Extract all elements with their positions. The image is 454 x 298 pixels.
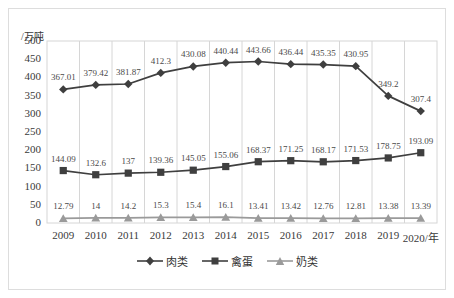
legend-marker-square-icon (202, 255, 228, 267)
data-label: 14 (79, 201, 113, 211)
data-label: 193.09 (404, 136, 438, 146)
data-label: 168.17 (306, 145, 340, 155)
legend-item-meat[interactable]: 肉类 (137, 253, 188, 269)
data-label: 12.79 (46, 201, 80, 211)
chart-legend: 肉类 禽蛋 奶类 (9, 253, 445, 269)
data-label: 132.6 (79, 158, 113, 168)
data-label: 168.37 (241, 145, 275, 155)
x-axis-tick: 2020/年 (400, 229, 442, 245)
legend-marker-diamond-icon (137, 255, 163, 267)
data-label: 13.39 (404, 201, 438, 211)
data-label: 435.35 (306, 48, 340, 58)
data-label: 15.4 (176, 200, 210, 210)
legend-label-meat: 肉类 (166, 253, 188, 269)
data-label: 12.81 (339, 201, 373, 211)
data-label: 16.1 (209, 200, 243, 210)
legend-item-dairy[interactable]: 奶类 (267, 253, 318, 269)
data-label: 171.53 (339, 144, 373, 154)
data-label: 171.25 (274, 144, 308, 154)
legend-marker-triangle-icon (267, 255, 293, 267)
data-label: 155.06 (209, 150, 243, 160)
data-label: 381.87 (111, 67, 145, 77)
data-label: 349.2 (371, 79, 405, 89)
data-label: 13.42 (274, 201, 308, 211)
data-label: 145.05 (176, 153, 210, 163)
data-label: 14.2 (111, 201, 145, 211)
chart-frame: /万吨 500450400350300250200150100500 367.0… (8, 8, 446, 290)
data-label: 436.44 (274, 47, 308, 57)
data-label: 144.09 (46, 154, 80, 164)
legend-label-dairy: 奶类 (296, 253, 318, 269)
data-label: 367.01 (46, 72, 80, 82)
legend-label-eggs: 禽蛋 (231, 253, 253, 269)
data-label: 430.08 (176, 49, 210, 59)
data-label: 440.44 (209, 46, 243, 56)
data-label: 13.38 (371, 201, 405, 211)
data-label: 430.95 (339, 49, 373, 59)
data-label: 178.75 (371, 141, 405, 151)
data-label: 137 (111, 156, 145, 166)
data-label: 443.66 (241, 45, 275, 55)
data-label: 412.3 (144, 56, 178, 66)
data-label: 379.42 (79, 68, 113, 78)
data-label: 12.76 (306, 201, 340, 211)
data-label: 15.3 (144, 200, 178, 210)
data-label: 307.4 (404, 94, 438, 104)
legend-item-eggs[interactable]: 禽蛋 (202, 253, 253, 269)
data-label: 13.41 (241, 201, 275, 211)
data-label: 139.36 (144, 155, 178, 165)
